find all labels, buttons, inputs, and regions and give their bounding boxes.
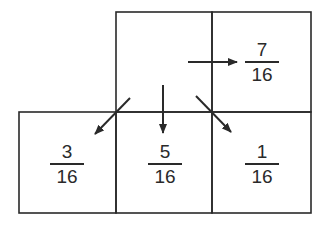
denominator: 16 bbox=[242, 65, 282, 85]
fraction-bottom-right: 1 16 bbox=[242, 142, 282, 187]
numerator: 7 bbox=[242, 40, 282, 60]
numerator: 1 bbox=[242, 142, 282, 162]
numerator: 3 bbox=[47, 142, 87, 162]
numerator: 5 bbox=[145, 142, 185, 162]
fraction-bottom-left: 3 16 bbox=[47, 142, 87, 187]
fraction-right: 7 16 bbox=[242, 40, 282, 85]
denominator: 16 bbox=[145, 167, 185, 187]
fraction-bar bbox=[245, 163, 279, 165]
denominator: 16 bbox=[242, 167, 282, 187]
fraction-bar bbox=[50, 163, 84, 165]
fraction-bar bbox=[148, 163, 182, 165]
arrow-down-right-icon bbox=[196, 96, 231, 132]
arrow-down-left-icon bbox=[95, 98, 130, 134]
denominator: 16 bbox=[47, 167, 87, 187]
fraction-bar bbox=[245, 61, 279, 63]
fraction-bottom: 5 16 bbox=[145, 142, 185, 187]
